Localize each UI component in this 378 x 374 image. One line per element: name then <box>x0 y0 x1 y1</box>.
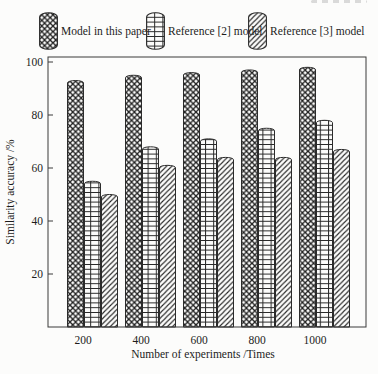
bar-diagonal-200 <box>102 195 118 327</box>
similarity-accuracy-bar-chart-figure: Model in this paper Reference [2] model … <box>0 0 378 374</box>
bar-diagonal-400 <box>160 165 176 327</box>
bar-crosshatch-800 <box>242 70 258 327</box>
x-tick-label-800: 800 <box>248 334 266 346</box>
bar-crosshatch-200 <box>68 81 84 327</box>
y-tick-label-100: 100 <box>26 56 44 68</box>
y-tick-label-20: 20 <box>32 268 44 280</box>
bar-crosshatch-400 <box>126 75 142 327</box>
bar-grid-600 <box>201 139 217 327</box>
bar-grid-1000 <box>317 120 333 327</box>
y-tick-label-60: 60 <box>32 162 44 174</box>
x-tick-label-400: 400 <box>132 334 150 346</box>
bar-crosshatch-600 <box>184 73 200 327</box>
bar-chart-canvas: 200400600800100020406080100 Similarity a… <box>0 0 378 374</box>
x-tick-label-600: 600 <box>190 334 208 346</box>
bar-grid-400 <box>143 147 159 327</box>
bar-diagonal-800 <box>276 157 292 327</box>
bar-grid-800 <box>259 128 275 327</box>
x-axis-title: Number of experiments /Times <box>131 348 275 361</box>
bar-grid-200 <box>85 181 101 327</box>
plot-area: 200400600800100020406080100 <box>26 56 366 346</box>
y-axis-title: Similarity accuracy /% <box>4 139 17 245</box>
bar-diagonal-1000 <box>334 149 350 327</box>
y-tick-label-80: 80 <box>32 109 44 121</box>
bar-diagonal-600 <box>218 157 234 327</box>
bar-crosshatch-1000 <box>300 67 316 327</box>
y-tick-label-40: 40 <box>32 215 44 227</box>
x-tick-label-200: 200 <box>74 334 92 346</box>
x-tick-label-1000: 1000 <box>304 334 327 346</box>
